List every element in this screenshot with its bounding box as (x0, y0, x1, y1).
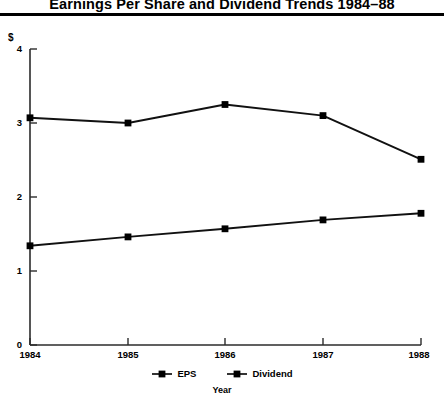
series-eps (27, 101, 425, 163)
series-dividend-point (125, 234, 132, 241)
series-eps-point (320, 112, 327, 119)
chart-legend: EPS Dividend (0, 368, 444, 379)
series-dividend-point (320, 217, 327, 224)
legend-entry-eps: EPS (151, 368, 196, 379)
series-eps-line (30, 105, 421, 160)
y-axis-ticks (30, 49, 37, 345)
legend-line-marker-icon (226, 369, 248, 379)
x-tick-label-1986: 1986 (202, 349, 248, 360)
series-eps-point (27, 114, 34, 121)
series-dividend-point (27, 242, 34, 249)
legend-line-marker-icon (151, 369, 173, 379)
series-eps-point (222, 101, 229, 108)
plot-area: 4 3 2 1 0 1984 1985 1986 1987 1988 (0, 0, 444, 407)
y-tick-label-1: 1 (6, 265, 22, 276)
y-tick-label-4: 4 (6, 43, 22, 54)
x-axis-ticks (30, 338, 421, 345)
legend-label-dividend: Dividend (252, 368, 292, 379)
y-tick-label-2: 2 (6, 191, 22, 202)
chart-figure: Earnings Per Share and Dividend Trends 1… (0, 0, 444, 407)
series-dividend (27, 210, 425, 249)
chart-plot-svg (0, 0, 444, 407)
series-dividend-point (222, 225, 229, 232)
y-tick-label-3: 3 (6, 117, 22, 128)
x-tick-label-1984: 1984 (7, 349, 53, 360)
series-eps-point (418, 156, 425, 163)
x-tick-label-1987: 1987 (300, 349, 346, 360)
x-tick-label-1988: 1988 (396, 349, 442, 360)
series-dividend-point (418, 210, 425, 217)
legend-entry-dividend: Dividend (226, 368, 292, 379)
legend-label-eps: EPS (177, 368, 196, 379)
series-eps-point (125, 120, 132, 127)
x-tick-label-1985: 1985 (105, 349, 151, 360)
x-axis-title: Year (0, 385, 444, 395)
